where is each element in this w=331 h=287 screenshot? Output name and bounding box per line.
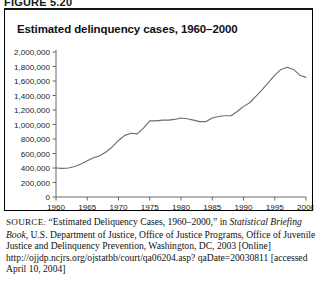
- x-axis-tick-label: 1985: [203, 203, 222, 211]
- source-segment: Statistical: [230, 216, 268, 227]
- x-axis-tick-label: 1970: [109, 203, 128, 211]
- source-segment: “Estimated Deliquency Cases, 1960–2000,”…: [49, 216, 230, 227]
- data-series-line: [56, 67, 306, 168]
- y-axis-tick-label: 800,000: [21, 135, 51, 144]
- chart-svg: 0200,000400,000600,000800,0001,000,0001,…: [5, 10, 314, 211]
- x-axis-tick-label: 1975: [141, 203, 160, 211]
- y-axis-tick-label: 1,000,000: [14, 121, 51, 130]
- source-citation: SOURCE: “Estimated Deliquency Cases, 196…: [6, 216, 324, 275]
- x-axis-tick-label: 1995: [266, 203, 285, 211]
- source-label: SOURCE:: [6, 217, 46, 227]
- x-axis-tick-label: 2000: [297, 203, 314, 211]
- y-axis-tick-label: 1,200,000: [14, 106, 51, 115]
- figure-label: FIGURE 5.20: [4, 0, 72, 8]
- y-axis-tick-label: 1,400,000: [14, 92, 51, 101]
- source-text: “Estimated Deliquency Cases, 1960–2000,”…: [6, 216, 315, 274]
- line-chart-plot: 0200,000400,000600,000800,0001,000,0001,…: [5, 10, 314, 211]
- y-axis-tick-label: 400,000: [21, 164, 51, 173]
- y-axis-tick-label: 1,800,000: [14, 63, 51, 72]
- y-axis-tick-label: 0: [45, 193, 50, 202]
- source-segment: U.S. Department of Justice, Office of Ju…: [28, 229, 244, 240]
- y-axis-tick-label: 1,600,000: [14, 77, 51, 86]
- chart-container: Estimated delinquency cases, 1960–2000 0…: [4, 10, 313, 211]
- x-axis-tick-label: 1960: [47, 203, 66, 211]
- y-axis-tick-label: 2,000,000: [14, 48, 51, 57]
- y-axis-tick-label: 600,000: [21, 150, 51, 159]
- x-axis-tick-label: 1965: [78, 203, 97, 211]
- y-axis-tick-label: 200,000: [21, 179, 51, 188]
- x-axis-tick-label: 1980: [172, 203, 191, 211]
- x-axis-tick-label: 1990: [234, 203, 253, 211]
